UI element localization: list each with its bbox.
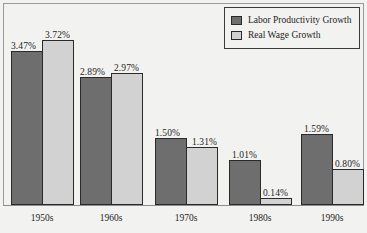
legend-item-real-wage-growth[interactable]: Real Wage Growth — [231, 28, 351, 43]
bar-group-1960s: 2.89% 2.97% 1960s — [79, 27, 143, 205]
legend-item-label: Labor Productivity Growth — [248, 16, 351, 26]
bar-value-label: 0.80% — [335, 160, 360, 170]
chart-legend: Labor Productivity Growth Real Wage Grow… — [224, 7, 360, 49]
bar-real-wage-1950s[interactable]: 3.72% — [42, 40, 74, 205]
bar-real-wage-1970s[interactable]: 1.31% — [186, 147, 218, 205]
bar-group-1970s: 1.50% 1.31% 1970s — [154, 27, 218, 205]
bar-group-1950s: 3.47% 3.72% 1950s — [10, 27, 74, 205]
bar-labor-productivity-1950s[interactable]: 3.47% — [11, 51, 43, 205]
bar-labor-productivity-1990s[interactable]: 1.59% — [301, 134, 333, 205]
x-tick-label-1960s: 1960s — [100, 214, 123, 224]
bar-real-wage-1990s[interactable]: 0.80% — [332, 169, 364, 205]
legend-swatch-icon — [231, 31, 242, 40]
bar-value-label: 3.72% — [45, 31, 70, 41]
bar-real-wage-1960s[interactable]: 2.97% — [111, 73, 143, 205]
bar-group-1980s: 1.01% 0.14% 1980s — [228, 27, 292, 205]
x-tick-label-1990s: 1990s — [321, 214, 344, 224]
bar-labor-productivity-1970s[interactable]: 1.50% — [155, 138, 187, 205]
bar-labor-productivity-1960s[interactable]: 2.89% — [80, 77, 112, 205]
bar-value-label: 2.89% — [80, 68, 105, 78]
bar-value-label: 0.14% — [263, 189, 288, 199]
x-tick-label-1980s: 1980s — [249, 214, 272, 224]
bar-real-wage-1980s[interactable]: 0.14% — [260, 198, 292, 205]
legend-item-label: Real Wage Growth — [248, 31, 320, 41]
bar-value-label: 2.97% — [114, 64, 139, 74]
bar-value-label: 1.50% — [155, 129, 180, 139]
bar-value-label: 1.31% — [192, 138, 217, 148]
x-axis-baseline — [3, 205, 364, 206]
x-tick-label-1950s: 1950s — [31, 214, 54, 224]
bar-chart: 3.47% 3.72% 1950s 2.89% 2.97% 1960s 1.50… — [0, 0, 367, 233]
legend-item-labor-productivity-growth[interactable]: Labor Productivity Growth — [231, 13, 351, 28]
bar-value-label: 1.01% — [232, 151, 257, 161]
bar-group-1990s: 1.59% 0.80% 1990s — [300, 27, 364, 205]
bar-labor-productivity-1980s[interactable]: 1.01% — [229, 160, 261, 205]
legend-swatch-icon — [231, 16, 242, 25]
bar-value-label: 1.59% — [304, 125, 329, 135]
x-tick-label-1970s: 1970s — [175, 214, 198, 224]
bar-value-label: 3.47% — [11, 42, 36, 52]
